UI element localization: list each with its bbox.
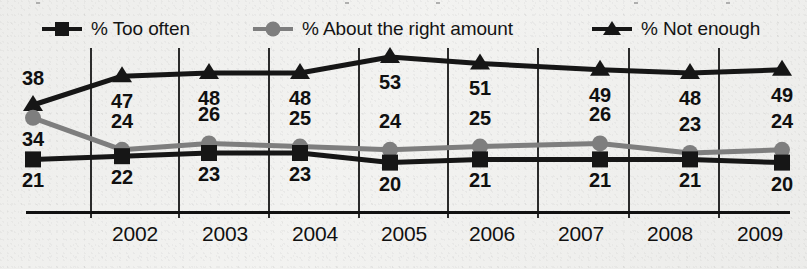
data-value-label: 53	[379, 71, 401, 94]
year-label: 2009	[737, 222, 783, 246]
year-label: 2007	[558, 222, 604, 246]
data-value-label: 49	[771, 84, 793, 107]
data-value-label: 25	[289, 107, 311, 130]
series-line	[33, 57, 782, 105]
data-point-marker	[201, 145, 217, 161]
chart-page: % Too often % About the right amount % N…	[0, 0, 807, 269]
data-point-marker	[592, 135, 608, 151]
data-value-label: 48	[679, 87, 701, 110]
year-label: 2003	[202, 222, 248, 246]
data-point-marker	[292, 145, 308, 161]
series-line	[33, 118, 782, 153]
data-value-label: 22	[111, 166, 133, 189]
plot-area: 3847484853514948493424262524252623242122…	[0, 0, 807, 269]
series-triangle	[23, 47, 792, 111]
series-line	[33, 153, 782, 163]
data-point-marker	[682, 151, 698, 167]
data-value-label: 51	[469, 77, 491, 100]
data-value-label: 21	[679, 169, 701, 192]
data-value-label: 23	[679, 113, 701, 136]
data-value-label: 26	[589, 103, 611, 126]
data-value-label: 21	[22, 169, 44, 192]
data-point-marker	[25, 151, 41, 167]
data-point-marker	[592, 151, 608, 167]
year-label: 2004	[292, 222, 338, 246]
data-value-label: 20	[379, 173, 401, 196]
data-value-label: 21	[469, 169, 491, 192]
data-value-label: 34	[22, 128, 44, 151]
data-value-label: 24	[111, 110, 133, 133]
data-value-label: 24	[379, 110, 401, 133]
data-value-label: 21	[589, 169, 611, 192]
data-point-marker	[774, 155, 790, 171]
year-label: 2006	[469, 222, 515, 246]
data-point-marker	[382, 155, 398, 171]
data-value-label: 24	[771, 110, 793, 133]
data-value-label: 23	[289, 163, 311, 186]
year-label: 2005	[381, 222, 427, 246]
data-point-marker	[25, 110, 41, 126]
data-value-label: 23	[198, 163, 220, 186]
data-point-marker	[114, 148, 130, 164]
year-label: 2008	[647, 222, 693, 246]
data-value-label: 26	[198, 103, 220, 126]
data-point-marker	[472, 151, 488, 167]
data-value-label: 38	[22, 67, 44, 90]
year-label: 2002	[112, 222, 158, 246]
data-value-label: 20	[771, 173, 793, 196]
data-value-label: 25	[469, 107, 491, 130]
